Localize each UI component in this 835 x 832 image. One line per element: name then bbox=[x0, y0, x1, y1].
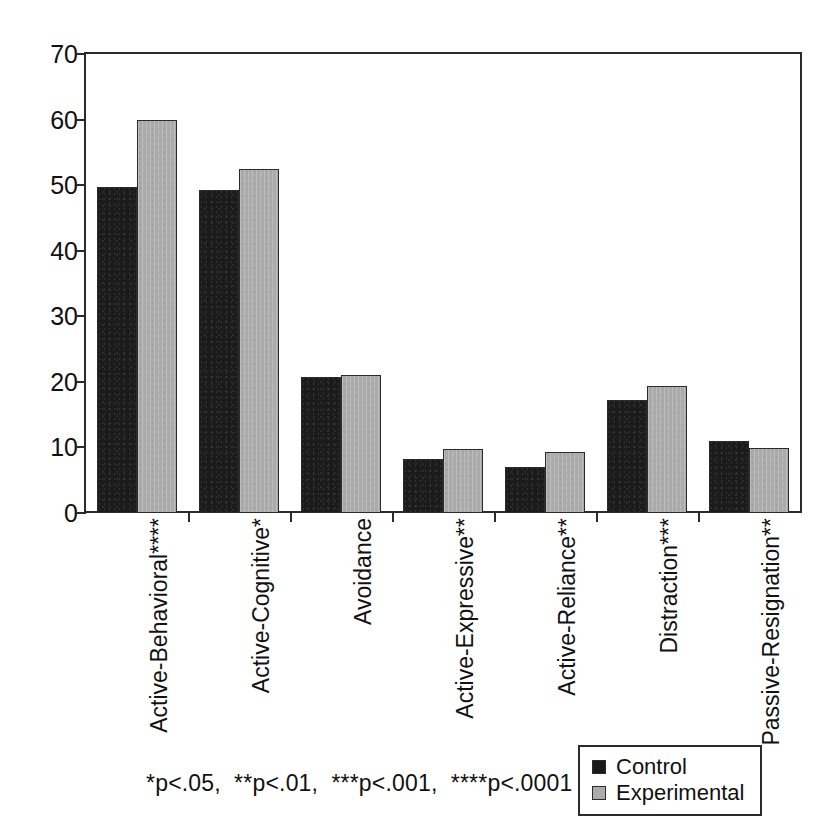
bar-group bbox=[188, 54, 290, 513]
bar-control bbox=[97, 187, 137, 513]
bar-group bbox=[392, 54, 494, 513]
bar-control bbox=[403, 459, 443, 513]
x-axis-labels: Active-Behavioral****Active-Cognitive*Av… bbox=[86, 518, 800, 748]
legend-label: Control bbox=[616, 756, 687, 778]
x-tick-label-text: Distraction*** bbox=[658, 518, 681, 654]
x-tick-label-text: Avoidance bbox=[352, 518, 375, 625]
bars-layer bbox=[86, 54, 800, 513]
bar-experimental bbox=[341, 375, 381, 513]
x-tick-label: Active-Reliance** bbox=[556, 518, 579, 696]
x-tick-label: Active-Expressive** bbox=[454, 518, 477, 719]
bar-group bbox=[494, 54, 596, 513]
y-tick-label-60: 60 bbox=[50, 107, 78, 132]
bar-group bbox=[596, 54, 698, 513]
y-tick-label-20: 20 bbox=[50, 369, 78, 394]
legend-swatch-experimental bbox=[592, 786, 606, 800]
bar-experimental bbox=[443, 449, 483, 513]
x-tick-label-text: Passive-Resignation** bbox=[760, 518, 783, 746]
legend: ControlExperimental bbox=[578, 745, 762, 816]
significance-footnote: *p<.05, **p<.01, ***p<.001, ****p<.0001 bbox=[146, 772, 573, 795]
bar-experimental bbox=[647, 386, 687, 513]
y-tick-label-10: 10 bbox=[50, 435, 78, 460]
bar-group bbox=[86, 54, 188, 513]
y-axis: 010203040506070 bbox=[0, 0, 78, 832]
x-tick-label: Avoidance bbox=[352, 518, 375, 625]
bar-group bbox=[290, 54, 392, 513]
legend-item: Experimental bbox=[592, 780, 744, 806]
bar-control bbox=[505, 467, 545, 513]
bar-control bbox=[301, 377, 341, 513]
bar-experimental bbox=[137, 120, 177, 513]
legend-label: Experimental bbox=[616, 782, 744, 804]
bar-experimental bbox=[749, 448, 789, 513]
x-tick-label: Active-Behavioral**** bbox=[148, 518, 171, 733]
legend-item: Control bbox=[592, 754, 744, 780]
bar-experimental bbox=[545, 452, 585, 513]
bar-chart: 010203040506070 Active-Behavioral****Act… bbox=[0, 0, 835, 832]
x-tick-label-text: Active-Cognitive* bbox=[250, 518, 273, 693]
bar-control bbox=[709, 441, 749, 513]
x-tick-label-text: Active-Reliance** bbox=[556, 518, 579, 696]
x-tick-label-text: Active-Expressive** bbox=[454, 518, 477, 719]
bar-experimental bbox=[239, 169, 279, 513]
bar-group bbox=[698, 54, 800, 513]
y-tick-label-50: 50 bbox=[50, 173, 78, 198]
bar-control bbox=[199, 190, 239, 513]
x-tick-label: Active-Cognitive* bbox=[250, 518, 273, 693]
x-tick-label: Distraction*** bbox=[658, 518, 681, 654]
bar-control bbox=[607, 400, 647, 513]
y-tick-label-70: 70 bbox=[50, 42, 78, 67]
x-tick-label: Passive-Resignation** bbox=[760, 518, 783, 746]
x-tick-label-text: Active-Behavioral**** bbox=[148, 518, 171, 733]
y-tick-label-40: 40 bbox=[50, 238, 78, 263]
y-tick-label-30: 30 bbox=[50, 304, 78, 329]
legend-swatch-control bbox=[592, 760, 606, 774]
